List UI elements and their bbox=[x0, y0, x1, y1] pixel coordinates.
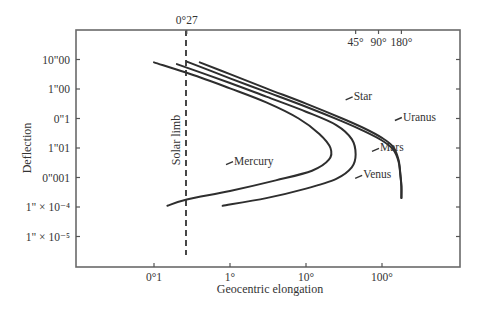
deflection-chart: Solar limb 0°11°10°100° 0°2745°90°180° 1… bbox=[0, 0, 483, 309]
y-tick-label: 1" × 10⁻⁵ bbox=[26, 231, 70, 243]
label-leader bbox=[346, 97, 353, 100]
x-top-tick-label: 45° bbox=[348, 36, 365, 48]
series-curves bbox=[154, 62, 401, 206]
x-axis-ticks: 0°11°10°100° bbox=[146, 263, 393, 283]
curve-mars bbox=[177, 64, 356, 206]
y-tick-label: 0"1 bbox=[54, 113, 70, 125]
label-leader bbox=[226, 162, 233, 165]
label-leader bbox=[395, 118, 402, 121]
solar-limb-label: Solar limb bbox=[169, 115, 183, 165]
x-axis-top-ticks: 0°2745°90°180° bbox=[176, 14, 413, 48]
y-tick-label: 10"00 bbox=[42, 54, 70, 66]
series-label-uranus: Uranus bbox=[403, 111, 437, 123]
y-tick-label: 1"01 bbox=[48, 142, 70, 154]
series-labels: StarUranusMarsVenusMercury bbox=[226, 90, 437, 180]
x-top-tick-label: 90° bbox=[370, 36, 387, 48]
y-axis-title: Deflection bbox=[20, 123, 34, 174]
label-leader bbox=[372, 148, 379, 151]
y-tick-label: 0"001 bbox=[42, 172, 70, 184]
x-top-tick-label: 180° bbox=[390, 36, 412, 48]
series-label-star: Star bbox=[354, 90, 373, 102]
x-axis-title: Geocentric elongation bbox=[217, 282, 323, 296]
series-label-venus: Venus bbox=[363, 168, 392, 180]
x-top-tick-label: 0°27 bbox=[176, 14, 198, 26]
y-tick-label: 1"00 bbox=[48, 83, 70, 95]
series-label-mercury: Mercury bbox=[234, 155, 274, 168]
series-label-mars: Mars bbox=[380, 141, 404, 153]
x-tick-label: 0°1 bbox=[146, 271, 162, 283]
label-leader bbox=[355, 175, 362, 178]
x-tick-label: 100° bbox=[371, 271, 393, 283]
y-tick-label: 1" × 10⁻⁴ bbox=[26, 201, 70, 213]
